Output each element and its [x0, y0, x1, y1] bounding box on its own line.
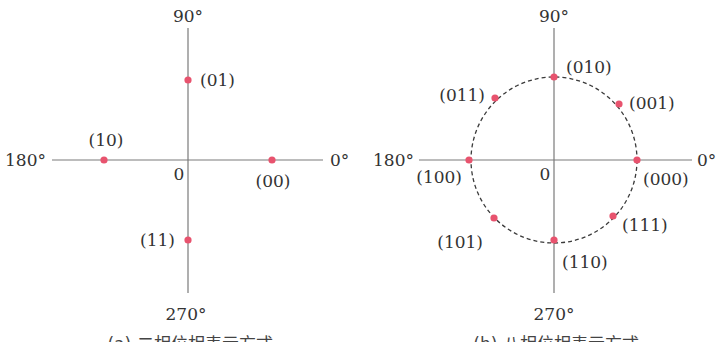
panel-a-point-label-11: (11): [140, 230, 175, 250]
panel-a-point-label-01: (01): [200, 70, 235, 90]
panel-a-point-label-00: (00): [256, 171, 291, 191]
panel-a-label-270: 270°: [166, 304, 207, 324]
panel-b-point-label-000: (000): [643, 169, 689, 189]
panel-b-origin-label: 0: [540, 164, 551, 184]
panel-a-label-180: 180°: [5, 150, 46, 170]
panel-b-point-label-010: (010): [566, 57, 612, 77]
panel-b-point-label-110: (110): [562, 252, 608, 272]
panel-b-point-label-111: (111): [622, 215, 668, 235]
panel-b-point-110: [550, 236, 557, 243]
panel-a-point-10: [100, 156, 107, 163]
panel-b-point-100: [465, 156, 472, 163]
panel-b-point-000: [633, 156, 640, 163]
panel-b-caption: (b) 八相位相表示方式: [473, 334, 638, 342]
panel-a-caption: (a) 二相位相表示方式: [107, 334, 272, 342]
panel-b-label-0: 0°: [697, 150, 716, 170]
panel-a-point-00: [268, 156, 275, 163]
panel-a-4-phase-diagram: 90° 180° 0° 270° 0 (00) (01) (10) (11) (…: [5, 6, 349, 342]
panel-a-point-11: [184, 236, 191, 243]
panel-b-point-111: [609, 212, 616, 219]
panel-b-8-phase-diagram: 90° 180° 0° 270° 0 (000) (001) (010) (01…: [373, 6, 716, 342]
panel-a-point-01: [184, 76, 191, 83]
panel-b-label-180: 180°: [373, 150, 414, 170]
panel-b-point-label-100: (100): [416, 167, 462, 187]
panel-b-point-label-101: (101): [437, 232, 483, 252]
panel-b-point-label-001: (001): [629, 93, 675, 113]
panel-b-label-270: 270°: [534, 304, 575, 324]
phase-diagrams: 90° 180° 0° 270° 0 (00) (01) (10) (11) (…: [0, 0, 716, 342]
panel-b-point-010: [550, 73, 557, 80]
panel-b-label-90: 90°: [539, 6, 569, 26]
panel-b-point-label-011: (011): [439, 85, 485, 105]
panel-a-label-90: 90°: [173, 6, 203, 26]
panel-b-point-101: [490, 214, 497, 221]
panel-a-origin-label: 0: [174, 164, 185, 184]
panel-b-point-001: [615, 100, 622, 107]
panel-b-point-011: [491, 94, 498, 101]
panel-a-label-0: 0°: [330, 150, 349, 170]
panel-a-point-label-10: (10): [89, 130, 124, 150]
